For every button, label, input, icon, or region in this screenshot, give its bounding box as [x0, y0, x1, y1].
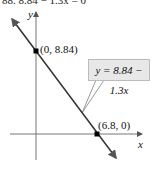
- equation-callout: y = 8.84 − 1.3x: [88, 59, 150, 81]
- line-series: [12, 19, 36, 51]
- x-axis-label: x: [138, 138, 143, 150]
- point-x-intercept: [95, 132, 100, 137]
- y-axis-label: y: [28, 8, 33, 20]
- point-label-y-intercept: (0, 8.84): [40, 43, 78, 55]
- point-label-x-intercept: (6.8, 0): [98, 119, 130, 131]
- chart-canvas: [0, 0, 156, 170]
- callout-pointer: [82, 80, 96, 113]
- point-y-intercept: [34, 49, 39, 54]
- callout-pointer2: [82, 80, 104, 113]
